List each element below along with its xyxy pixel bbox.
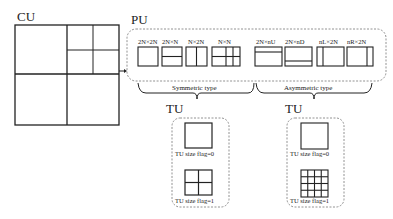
tu-left-container (172, 118, 229, 207)
pu-partitions (138, 47, 373, 66)
pu-label-2NxN: 2N×N (162, 39, 178, 46)
pu-label-Nx2N: N×2N (188, 39, 204, 46)
tu-right-flag0: TU size flag=0 (290, 151, 329, 158)
pu-label-NxN: N×N (218, 39, 231, 46)
cu-label: CU (17, 10, 35, 23)
arrow-cu-to-pu (119, 69, 127, 73)
pu-label-2Nx2N: 2N×2N (138, 39, 158, 46)
tu-right-container (287, 118, 344, 207)
symmetric-type-label: Symmetric type (172, 85, 217, 92)
tu-left-label: TU (166, 102, 183, 115)
diagram-canvas (0, 0, 393, 219)
tu-right-flag1: TU size flag=1 (290, 198, 329, 205)
tu-left-flag0: TU size flag=0 (175, 151, 214, 158)
pu-label-2NxnD: 2N×nD (285, 39, 305, 46)
pu-label: PU (131, 13, 148, 26)
tu-right-label: TU (285, 102, 302, 115)
pu-label-nRx2N: nR×2N (347, 39, 366, 46)
tu-left-flag1: TU size flag=1 (175, 198, 214, 205)
pu-label-2NxnU: 2N×nU (256, 39, 276, 46)
tu-right-blocks (301, 123, 328, 197)
cu-block (15, 25, 119, 125)
pu-label-nLx2N: nL×2N (319, 39, 338, 46)
asymmetric-type-label: Asymmetric type (284, 85, 332, 92)
tu-left-blocks (185, 123, 212, 195)
